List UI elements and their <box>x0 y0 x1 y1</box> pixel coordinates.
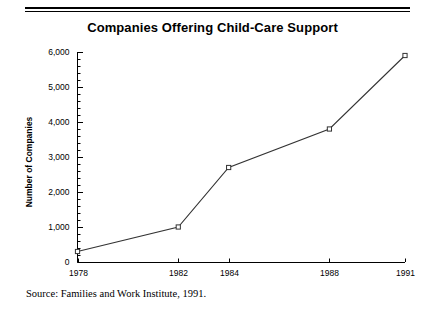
x-axis-tick-label: 1982 <box>157 268 201 278</box>
y-axis-tick-label: 3,000 <box>22 152 70 162</box>
y-axis-tick-label: 5,000 <box>22 82 70 92</box>
data-series-line <box>78 56 406 252</box>
data-series-markers <box>75 53 407 253</box>
x-axis-tick-label: 1984 <box>208 268 252 278</box>
y-axis-tick-label: 4,000 <box>22 117 70 127</box>
data-point-marker <box>227 165 231 169</box>
chart-figure: Companies Offering Child-Care Support Nu… <box>0 0 425 315</box>
x-axis-tick-label: 1978 <box>57 268 101 278</box>
source-note: Source: Families and Work Institute, 199… <box>26 288 206 299</box>
data-point-marker <box>75 249 79 253</box>
y-axis-tick-label: 2,000 <box>22 187 70 197</box>
data-point-marker <box>176 225 180 229</box>
x-axis-ticks <box>79 259 406 263</box>
data-point-marker <box>403 53 407 57</box>
y-axis-tick-label: 1,000 <box>22 222 70 232</box>
y-axis-major-ticks <box>78 53 84 263</box>
y-axis-tick-label: 6,000 <box>22 47 70 57</box>
y-axis-tick-label: 0 <box>22 257 70 267</box>
x-axis-tick-label: 1988 <box>308 268 352 278</box>
data-point-marker <box>327 127 331 131</box>
x-axis-tick-label: 1991 <box>384 268 425 278</box>
axes-group <box>78 52 406 263</box>
